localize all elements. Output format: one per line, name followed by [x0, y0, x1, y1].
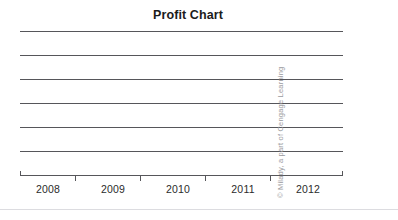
x-axis-tick [140, 175, 141, 181]
x-axis-label-2011: 2011 [211, 183, 275, 195]
copyright-credit: © Milady, a part of Cengage Learning [384, 78, 396, 198]
gridline [20, 79, 343, 80]
x-axis-tick [205, 175, 206, 181]
gridline [20, 55, 343, 56]
gridline [20, 127, 343, 128]
clipped-header-text [0, 0, 398, 5]
page-bottom-rule [0, 209, 398, 210]
gridline [20, 103, 343, 104]
profit-chart-figure: Profit Chart 2008 2009 2010 2011 2012 © … [0, 0, 398, 220]
x-axis-tick [75, 175, 76, 181]
x-axis-start-cap [20, 171, 21, 176]
x-axis-label-2010: 2010 [146, 183, 210, 195]
x-axis-label-2012: 2012 [276, 183, 340, 195]
x-axis-line [20, 175, 343, 176]
x-axis-tick [270, 175, 271, 181]
x-axis-label-2009: 2009 [81, 183, 145, 195]
x-axis-end-cap [342, 171, 343, 176]
chart-title: Profit Chart [0, 8, 376, 22]
copyright-credit-text: © Milady, a part of Cengage Learning [276, 68, 285, 198]
gridline [20, 31, 343, 32]
gridline [20, 151, 343, 152]
plot-area [20, 26, 343, 176]
x-axis-label-2008: 2008 [16, 183, 80, 195]
